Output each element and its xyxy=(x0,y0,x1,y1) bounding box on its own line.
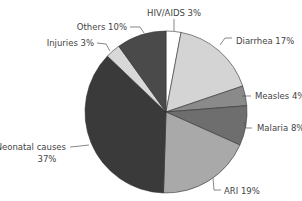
pie-chart: HIV/AIDS 3% Diarrhea 17% Measles 4% Mala… xyxy=(0,0,302,201)
label-neonatal-line2: 37% xyxy=(38,154,57,164)
label-hiv-aids: HIV/AIDS 3% xyxy=(147,8,201,18)
label-malaria: Malaria 8% xyxy=(257,123,302,133)
label-neonatal-line1: Neonatal causes xyxy=(0,142,67,152)
label-ari: ARI 19% xyxy=(224,186,260,196)
label-measles: Measles 4% xyxy=(255,91,302,101)
pie-slices xyxy=(85,31,247,193)
label-diarrhea: Diarrhea 17% xyxy=(236,36,294,46)
label-injuries: Injuries 3% xyxy=(47,38,94,48)
label-others: Others 10% xyxy=(77,22,127,32)
